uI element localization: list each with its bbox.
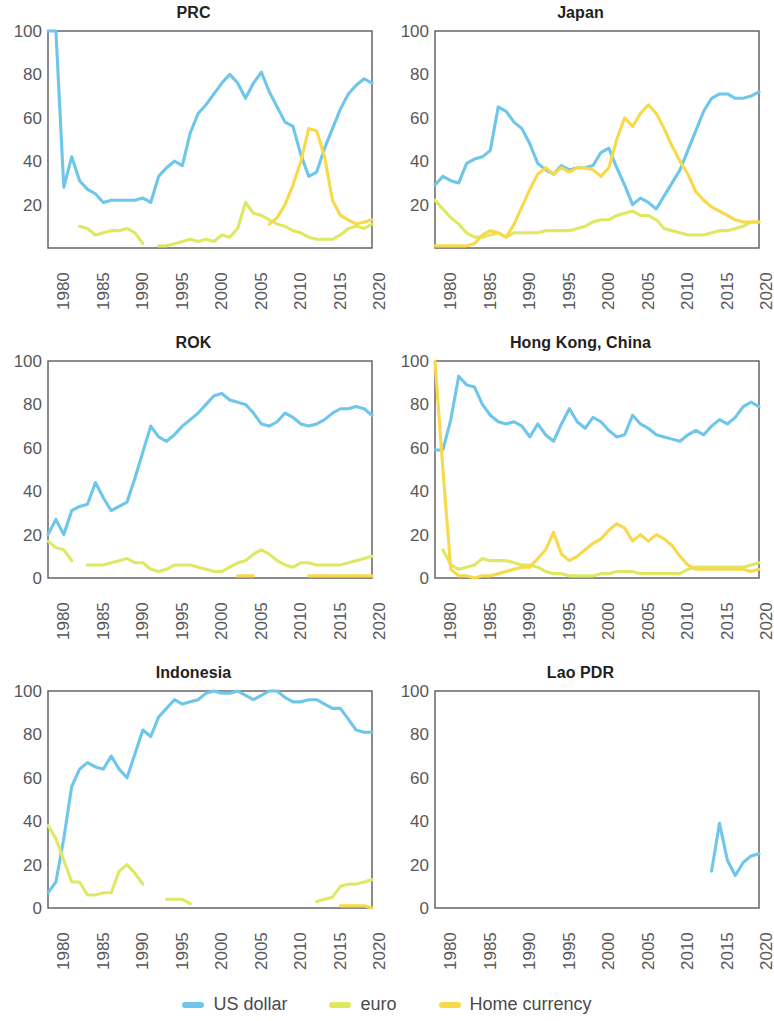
x-tick-label: 2000 [213,932,230,970]
x-axis-japan: 198019851990199520002005201020152020 [387,0,774,330]
chart-panel-prc: PRC 20406080100 198019851990199520002005… [0,0,387,330]
x-tick-label: 2000 [213,272,230,310]
x-tick-label: 1985 [482,602,499,640]
x-axis-prc: 198019851990199520002005201020152020 [0,0,387,330]
x-tick-label: 2010 [679,272,696,310]
x-tick-label: 2005 [640,272,657,310]
x-tick-label: 2005 [640,602,657,640]
x-tick-label: 1985 [482,272,499,310]
x-axis-hong-kong-china: 198019851990199520002005201020152020 [387,330,774,660]
x-tick-label: 1995 [174,272,191,310]
x-tick-label: 1990 [521,602,538,640]
x-tick-label: 1995 [561,272,578,310]
x-tick-label: 1980 [55,932,72,970]
legend-label-home-currency: Home currency [470,994,592,1015]
x-tick-label: 2005 [253,272,270,310]
chart-legend: US dollar euro Home currency [0,994,774,1015]
x-tick-label: 2015 [719,272,736,310]
x-tick-label: 2010 [679,932,696,970]
x-tick-label: 2020 [371,602,388,640]
chart-panel-rok: ROK 020406080100 19801985199019952000200… [0,330,387,660]
x-tick-label: 2005 [253,932,270,970]
x-tick-label: 1985 [482,932,499,970]
x-tick-label: 2015 [332,602,349,640]
x-tick-label: 1995 [561,602,578,640]
legend-label-us-dollar: US dollar [213,994,287,1015]
x-axis-lao-pdr: 198019851990199520002005201020152020 [387,660,774,990]
legend-entry-home-currency: Home currency [439,994,592,1015]
x-tick-label: 1995 [174,602,191,640]
multi-panel-line-chart-figure: PRC 20406080100 198019851990199520002005… [0,0,774,1021]
x-tick-label: 2015 [332,932,349,970]
x-tick-label: 1990 [134,932,151,970]
chart-panel-indonesia: Indonesia 020406080100 19801985199019952… [0,660,387,990]
x-tick-label: 2015 [332,272,349,310]
x-tick-label: 2020 [371,272,388,310]
x-tick-label: 1980 [442,932,459,970]
x-tick-label: 2000 [600,602,617,640]
x-tick-label: 2000 [600,272,617,310]
x-tick-label: 2010 [292,602,309,640]
x-tick-label: 2020 [758,272,774,310]
x-tick-label: 2000 [213,602,230,640]
x-tick-label: 1990 [134,272,151,310]
x-axis-indonesia: 198019851990199520002005201020152020 [0,660,387,990]
x-tick-label: 1990 [521,932,538,970]
legend-swatch-us-dollar-icon [182,1002,204,1008]
x-tick-label: 2010 [679,602,696,640]
x-tick-label: 2010 [292,932,309,970]
x-tick-label: 1995 [561,932,578,970]
chart-panel-hong-kong-china: Hong Kong, China 020406080100 1980198519… [387,330,774,660]
chart-panel-japan: Japan 20406080100 1980198519901995200020… [387,0,774,330]
x-tick-label: 1985 [95,932,112,970]
legend-label-euro: euro [360,994,396,1015]
x-tick-label: 2005 [253,602,270,640]
x-tick-label: 2020 [371,932,388,970]
chart-panel-lao-pdr: Lao PDR 020406080100 1980198519901995200… [387,660,774,990]
x-tick-label: 1980 [442,602,459,640]
legend-swatch-euro-icon [329,1002,351,1008]
legend-swatch-home-currency-icon [439,1002,461,1008]
x-tick-label: 2020 [758,932,774,970]
x-tick-label: 2015 [719,602,736,640]
x-tick-label: 1980 [55,602,72,640]
x-tick-label: 2005 [640,932,657,970]
legend-entry-us-dollar: US dollar [182,994,287,1015]
x-tick-label: 1985 [95,602,112,640]
x-tick-label: 1995 [174,932,191,970]
x-tick-label: 1990 [134,602,151,640]
x-tick-label: 1985 [95,272,112,310]
x-tick-label: 1980 [442,272,459,310]
x-tick-label: 1990 [521,272,538,310]
x-axis-rok: 198019851990199520002005201020152020 [0,330,387,660]
x-tick-label: 2000 [600,932,617,970]
x-tick-label: 2010 [292,272,309,310]
x-tick-label: 2015 [719,932,736,970]
x-tick-label: 1980 [55,272,72,310]
legend-entry-euro: euro [329,994,396,1015]
x-tick-label: 2020 [758,602,774,640]
